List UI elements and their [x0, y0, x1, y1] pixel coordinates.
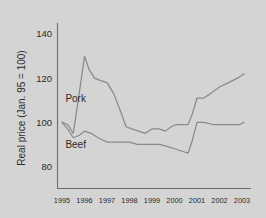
- x-tick-label: 1996: [76, 196, 92, 205]
- series-label-pork: Pork: [65, 93, 87, 104]
- x-tick-label: 2000: [166, 196, 182, 205]
- y-tick-label: 100: [36, 117, 52, 128]
- x-tick-label: 1995: [54, 196, 70, 205]
- series-line-beef: [62, 122, 244, 153]
- x-tick-label: 1998: [121, 196, 137, 205]
- series-label-beef: Beef: [65, 139, 86, 150]
- x-axis-tick-labels: 199519961997199819992000200120022003: [54, 196, 250, 205]
- chart-container: Real price (Jan. 95 = 100) 80100120140 1…: [0, 0, 266, 218]
- x-tick-label: 1999: [144, 196, 160, 205]
- x-tick-label: 2003: [234, 196, 250, 205]
- x-tick-label: 1997: [99, 196, 115, 205]
- series-line-pork: [62, 56, 244, 133]
- y-tick-label: 140: [36, 28, 52, 39]
- y-axis-tick-labels: 80100120140: [36, 28, 52, 171]
- y-axis-label: Real price (Jan. 95 = 100): [16, 50, 27, 165]
- y-tick-label: 120: [36, 73, 52, 84]
- x-tick-label: 2002: [211, 196, 227, 205]
- line-chart: Real price (Jan. 95 = 100) 80100120140 1…: [0, 0, 266, 218]
- x-tick-label: 2001: [189, 196, 205, 205]
- y-tick-label: 80: [41, 161, 52, 172]
